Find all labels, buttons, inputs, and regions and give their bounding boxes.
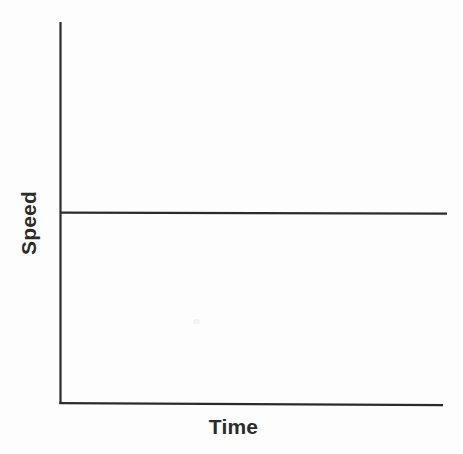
scan-artifact [193,319,200,324]
x-axis-label: Time [0,416,463,437]
x-axis-line [60,403,444,405]
speed-series-line [60,213,447,214]
y-axis-label: Speed [18,163,42,283]
plot-area [0,0,463,454]
chart-figure: Speed Time [0,0,463,454]
